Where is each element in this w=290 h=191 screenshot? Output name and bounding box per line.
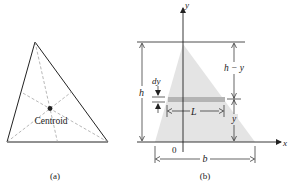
- caption-a: (a): [50, 171, 60, 181]
- lower-segment-label: y: [231, 114, 237, 124]
- x-axis-label: x: [282, 138, 287, 148]
- diagram-canvas: Centroid (a) y x 0 h dy L: [0, 0, 290, 191]
- upper-segment-label: h − y: [224, 63, 245, 73]
- panel-b: y x 0 h dy L h − y y: [137, 0, 287, 181]
- height-label: h: [139, 87, 144, 98]
- triangle-b: [155, 44, 255, 142]
- panel-a: Centroid (a): [7, 42, 108, 181]
- triangle-a: [7, 42, 108, 142]
- dy-label: dy: [152, 76, 161, 86]
- median-lines: [7, 42, 108, 142]
- strip-length-label: L: [190, 106, 197, 117]
- y-axis-label: y: [184, 0, 189, 10]
- origin-label: 0: [172, 145, 177, 155]
- centroid-point: [48, 106, 53, 111]
- centroid-label: Centroid: [34, 116, 67, 126]
- caption-b: (b): [200, 171, 211, 181]
- strip-element: [168, 97, 225, 102]
- base-label: b: [203, 153, 208, 164]
